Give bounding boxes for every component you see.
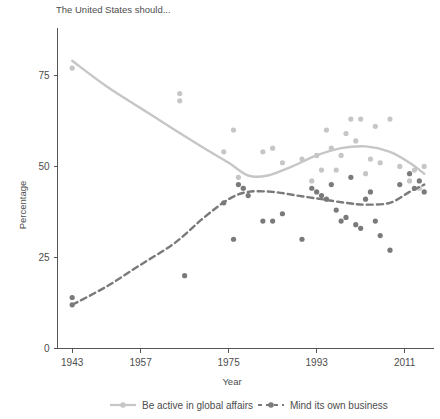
data-point xyxy=(348,116,353,121)
y-tick-label: 75 xyxy=(38,70,50,81)
y-tick-label: 25 xyxy=(38,252,50,263)
data-point xyxy=(246,193,251,198)
data-point xyxy=(353,138,358,143)
y-tick-label: 0 xyxy=(44,343,50,354)
data-point xyxy=(339,218,344,223)
x-tick-label: 1957 xyxy=(129,357,152,368)
data-point xyxy=(407,171,412,176)
legend-label-0: Be active in global affairs xyxy=(142,400,253,411)
data-point xyxy=(236,175,241,180)
x-tick-label: 1975 xyxy=(218,357,241,368)
x-tick-label: 1943 xyxy=(61,357,84,368)
data-point xyxy=(387,248,392,253)
data-point xyxy=(182,273,187,278)
data-point xyxy=(348,175,353,180)
data-point xyxy=(280,160,285,165)
data-point xyxy=(368,157,373,162)
data-point xyxy=(339,153,344,158)
data-point xyxy=(422,189,427,194)
data-point xyxy=(260,218,265,223)
series-trend-line-1 xyxy=(72,185,424,305)
data-point xyxy=(324,127,329,132)
data-point xyxy=(417,178,422,183)
chart-title: The United States should... xyxy=(56,4,171,15)
x-axis-ticks: 19431957197519932011 xyxy=(61,349,416,368)
x-tick-label: 1993 xyxy=(306,357,329,368)
data-point xyxy=(334,208,339,213)
data-point xyxy=(373,124,378,129)
data-point xyxy=(387,116,392,121)
data-point xyxy=(378,233,383,238)
data-point xyxy=(363,171,368,176)
chart-canvas: The United States should... 0255075 1943… xyxy=(0,0,440,419)
legend-label-1: Mind its own business xyxy=(290,400,388,411)
data-point xyxy=(422,164,427,169)
data-point xyxy=(358,116,363,121)
y-tick-label: 50 xyxy=(38,161,50,172)
data-point xyxy=(241,186,246,191)
data-point xyxy=(319,167,324,172)
data-point xyxy=(270,218,275,223)
data-point xyxy=(397,182,402,187)
chart-container: The United States should... 0255075 1943… xyxy=(0,0,440,419)
data-point xyxy=(329,182,334,187)
data-point xyxy=(70,65,75,70)
data-point xyxy=(319,193,324,198)
data-point xyxy=(373,218,378,223)
data-point xyxy=(358,226,363,231)
legend-marker-0 xyxy=(120,402,126,408)
x-axis-title: Year xyxy=(222,376,241,387)
y-axis-ticks: 0255075 xyxy=(38,70,57,354)
data-point xyxy=(309,186,314,191)
data-point xyxy=(363,197,368,202)
data-point xyxy=(270,146,275,151)
data-point xyxy=(334,167,339,172)
data-point xyxy=(231,237,236,242)
data-point xyxy=(299,237,304,242)
data-point xyxy=(353,222,358,227)
data-point xyxy=(236,182,241,187)
data-point xyxy=(314,189,319,194)
x-tick-label: 2011 xyxy=(394,357,416,368)
data-point xyxy=(260,149,265,154)
data-point xyxy=(280,211,285,216)
data-point xyxy=(177,98,182,103)
data-point xyxy=(368,189,373,194)
data-point xyxy=(70,295,75,300)
data-point xyxy=(378,160,383,165)
data-point xyxy=(231,127,236,132)
y-axis-title: Percentage xyxy=(17,181,28,230)
data-point xyxy=(407,178,412,183)
series-points-0 xyxy=(70,65,427,190)
chart-legend: Be active in global affairsMind its own … xyxy=(110,400,388,411)
data-point xyxy=(343,215,348,220)
data-point xyxy=(221,149,226,154)
data-point xyxy=(177,91,182,96)
data-point xyxy=(397,164,402,169)
series-layer xyxy=(70,61,427,308)
data-point xyxy=(309,178,314,183)
data-point xyxy=(343,131,348,136)
legend-marker-1 xyxy=(268,402,274,408)
